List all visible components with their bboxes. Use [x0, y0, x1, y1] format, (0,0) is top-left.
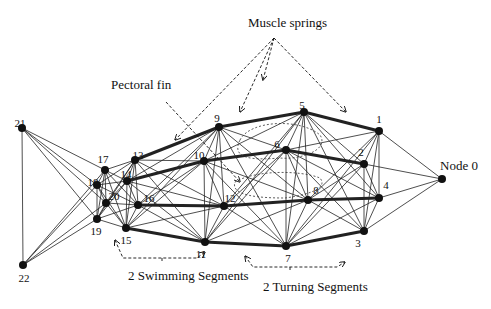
- node-label-7: 7: [285, 252, 291, 264]
- node-label-10: 10: [194, 149, 206, 161]
- node-label-6: 6: [274, 138, 280, 150]
- node-6: [282, 146, 290, 154]
- node-4: [375, 194, 383, 202]
- node-2: [360, 160, 368, 168]
- node-label-8: 8: [313, 184, 319, 196]
- node-label-15: 15: [121, 234, 133, 246]
- node-0: [438, 175, 446, 183]
- node-label-0: Node 0: [440, 158, 478, 173]
- spring-edge: [106, 203, 126, 228]
- node-label-14: 14: [121, 168, 133, 180]
- node-16: [134, 201, 142, 209]
- spring-edge: [224, 112, 304, 206]
- spring-edge: [379, 131, 442, 179]
- muscle-spring: [138, 205, 224, 206]
- spring-edge: [205, 150, 286, 242]
- node-label-22: 22: [19, 272, 30, 284]
- node-label-18: 18: [88, 176, 100, 188]
- fish-spring-mass-diagram: Node 01234567891011121314151617181920212…: [0, 0, 491, 309]
- spring-edge: [23, 185, 97, 265]
- node-label-11: 11: [196, 248, 207, 260]
- spring-edge: [204, 161, 308, 200]
- node-label-13: 13: [133, 149, 145, 161]
- spring-edge: [22, 128, 23, 265]
- pectoral-fin-label: Pectoral fin: [111, 77, 172, 92]
- muscle-springs-label: Muscle springs: [248, 15, 327, 30]
- muscle-spring-arrow: [274, 38, 346, 112]
- node-19: [93, 215, 101, 223]
- spring-edge: [364, 164, 442, 179]
- node-15: [122, 224, 130, 232]
- spring-edge: [204, 161, 205, 242]
- spring-edge: [304, 112, 308, 200]
- node-label-9: 9: [214, 112, 220, 124]
- node-9: [215, 123, 223, 131]
- node-11: [201, 238, 209, 246]
- node-label-5: 5: [299, 99, 305, 111]
- spring-edge: [126, 206, 224, 228]
- node-8: [304, 196, 312, 204]
- node-label-16: 16: [144, 192, 156, 204]
- node-22: [19, 261, 27, 269]
- node-3: [360, 227, 368, 235]
- node-label-17: 17: [98, 153, 110, 165]
- node-label-12: 12: [225, 192, 236, 204]
- spring-edge: [224, 206, 286, 246]
- spring-edge: [364, 164, 379, 198]
- node-label-4: 4: [383, 179, 389, 191]
- node-7: [282, 242, 290, 250]
- muscle-spring: [205, 242, 286, 246]
- spring-edge: [22, 128, 106, 203]
- mass-nodes: [18, 108, 446, 269]
- spring-edge: [135, 160, 138, 205]
- node-label-1: 1: [376, 113, 382, 125]
- spring-edge: [22, 128, 105, 170]
- node-label-19: 19: [91, 225, 103, 237]
- diagram-canvas: Node 01234567891011121314151617181920212…: [0, 0, 491, 309]
- spring-edge: [23, 219, 97, 265]
- node-label-3: 3: [355, 237, 361, 249]
- node-17: [101, 166, 109, 174]
- spring-edge: [219, 127, 308, 200]
- muscle-spring: [219, 112, 304, 127]
- node-label-21: 21: [15, 117, 26, 129]
- spring-edge: [106, 203, 138, 205]
- node-label-20: 20: [109, 190, 121, 202]
- muscle-spring: [308, 198, 379, 200]
- swimming-segments-label: 2 Swimming Segments: [128, 268, 249, 283]
- muscle-spring-arrow: [240, 38, 274, 112]
- segment-bracket: [245, 256, 345, 267]
- spring-edge: [22, 128, 97, 219]
- node-label-2: 2: [358, 146, 364, 158]
- spring-edge: [205, 127, 219, 242]
- node-labels: Node 01234567891011121314151617181920212…: [15, 99, 478, 284]
- turning-segments-label: 2 Turning Segments: [263, 279, 368, 294]
- spring-edge: [308, 200, 364, 231]
- node-1: [375, 127, 383, 135]
- spring-edge: [22, 128, 97, 185]
